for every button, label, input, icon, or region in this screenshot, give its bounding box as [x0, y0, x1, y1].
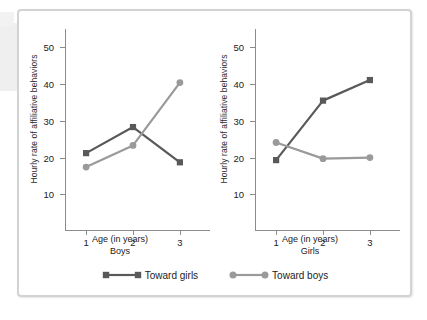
legend-square-icon	[101, 269, 143, 281]
data-point-marker	[130, 124, 136, 130]
y-tick-label: 50	[233, 42, 244, 53]
series-layer-girls	[255, 29, 391, 231]
y-tick-label: 40	[43, 79, 54, 90]
data-point-marker	[130, 142, 137, 149]
legend-circle-icon	[228, 269, 270, 281]
y-tick-label: 50	[43, 42, 54, 53]
data-point-marker	[367, 77, 373, 83]
chart-legend: Toward girlsToward boys	[19, 269, 410, 281]
legend-label: Toward boys	[272, 270, 328, 281]
x-axis-title-text-girls: Age (in years)	[282, 234, 338, 244]
data-point-marker	[83, 150, 89, 156]
series-layer-boys	[65, 29, 201, 231]
figure-frame: Hourly rate of affiliative behaviors 102…	[17, 9, 412, 297]
legend-item: Toward boys	[228, 269, 328, 281]
data-point-marker	[176, 79, 183, 86]
panel-group-label-boys: Boys	[25, 245, 215, 257]
figure-page: Hourly rate of affiliative behaviors 102…	[0, 0, 427, 320]
data-point-marker	[177, 159, 183, 165]
y-axis-title-boys: Hourly rate of affiliative behaviors	[29, 21, 43, 217]
scan-artifact-corner	[0, 12, 14, 26]
data-point-marker	[273, 157, 279, 163]
y-tick-label: 40	[233, 79, 244, 90]
y-tick-label: 20	[43, 152, 54, 163]
y-tick-label: 10	[43, 189, 54, 200]
legend-item: Toward girls	[101, 269, 198, 281]
data-point-marker	[83, 164, 90, 171]
y-tick-label: 30	[43, 115, 54, 126]
data-point-marker	[320, 98, 326, 104]
y-tick-label: 10	[233, 189, 244, 200]
plot-area-girls: 1020304050 123	[255, 29, 391, 231]
legend-label: Toward girls	[145, 270, 198, 281]
data-point-marker	[273, 139, 280, 146]
chart-panel-boys: Hourly rate of affiliative behaviors 102…	[25, 11, 215, 263]
panel-group-label-girls: Girls	[215, 245, 405, 257]
chart-panel-girls: Hourly rate of affiliative behaviors 102…	[215, 11, 405, 263]
data-point-marker	[320, 155, 327, 162]
y-tick-label: 30	[233, 115, 244, 126]
chart-panels: Hourly rate of affiliative behaviors 102…	[19, 11, 410, 263]
data-point-marker	[366, 154, 373, 161]
y-axis-title-girls: Hourly rate of affiliative behaviors	[219, 21, 233, 217]
x-axis-title-girls: Age (in years) Girls	[215, 233, 405, 257]
x-axis-title-text-boys: Age (in years)	[92, 234, 148, 244]
plot-area-boys: 1020304050 123	[65, 29, 201, 231]
x-axis-title-boys: Age (in years) Boys	[25, 233, 215, 257]
y-tick-label: 20	[233, 152, 244, 163]
